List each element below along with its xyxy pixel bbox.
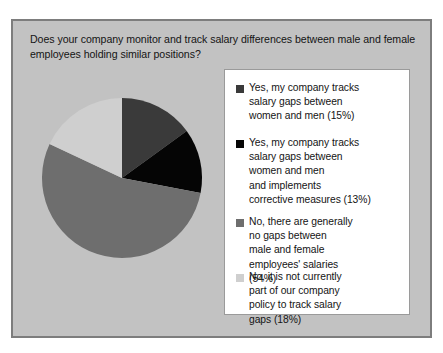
legend-swatch-tracks-and-corrects [236,140,244,148]
legend-swatch-not-policy [236,274,244,282]
pie-chart [21,71,221,271]
legend-item[interactable]: No, it is not currently part of our comp… [236,270,348,327]
legend-item[interactable]: Yes, my company tracks salary gaps betwe… [236,81,365,124]
chart-panel-background: Does your company monitor and track sala… [13,21,430,336]
legend-item-label: Yes, my company tracks salary gaps betwe… [249,136,371,207]
legend-swatch-no-gaps [236,219,244,227]
page-title: Does your company monitor and track sala… [30,32,416,61]
chart-panel: Does your company monitor and track sala… [11,19,432,338]
pie-chart-figure: Does your company monitor and track sala… [0,0,443,353]
legend-item-label: Yes, my company tracks salary gaps betwe… [249,81,359,124]
legend-item-label: No, it is not currently part of our comp… [249,270,342,327]
legend-swatch-tracks-gaps [236,85,244,93]
pie-slice-group [42,98,202,258]
legend-item[interactable]: Yes, my company tracks salary gaps betwe… [236,136,377,207]
chart-legend: Yes, my company tracks salary gaps betwe… [224,69,410,315]
pie-chart-svg [21,71,221,271]
